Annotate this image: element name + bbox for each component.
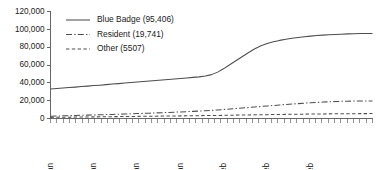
x-axis-minor-ticks xyxy=(51,119,373,123)
y-axis-group: 020,00040,00060,00080,000100,000120,000 xyxy=(15,7,51,123)
x-tick-label: 10 Feb xyxy=(262,163,271,169)
legend-label-resident: Resident (19,741) xyxy=(97,29,164,39)
x-axis-group: 06 Jan13 Jan20 Jan27 Jan03 Feb10 Feb17 F… xyxy=(46,119,373,170)
x-tick-label: 06 Jan xyxy=(46,163,55,169)
series-line-blue-badge xyxy=(51,33,373,89)
y-tick-label: 100,000 xyxy=(15,25,45,34)
y-tick-label: 60,000 xyxy=(19,60,44,69)
x-tick-label: 20 Jan xyxy=(132,163,141,169)
y-tick-label: 80,000 xyxy=(19,42,44,51)
x-axis-tick-labels: 06 Jan13 Jan20 Jan27 Jan03 Feb10 Feb17 F… xyxy=(46,163,315,169)
x-tick-label: 03 Feb xyxy=(219,163,228,169)
legend-label-other: Other (5507) xyxy=(97,43,145,53)
y-axis-ticks xyxy=(47,12,51,119)
y-axis-tick-labels: 020,00040,00060,00080,000100,000120,000 xyxy=(15,7,45,123)
x-tick-label: 13 Jan xyxy=(89,163,98,169)
y-tick-label: 40,000 xyxy=(19,78,44,87)
x-tick-label: 27 Jan xyxy=(176,163,185,169)
y-tick-label: 120,000 xyxy=(15,7,45,16)
chart-legend: Blue Badge (95,406)Resident (19,741)Othe… xyxy=(66,14,174,53)
series-line-other xyxy=(51,114,373,118)
y-tick-label: 0 xyxy=(40,114,45,123)
x-tick-label: 17 Feb xyxy=(306,163,315,169)
line-chart: 020,00040,00060,00080,000100,000120,000 … xyxy=(0,0,384,169)
legend-label-blue-badge: Blue Badge (95,406) xyxy=(97,14,174,24)
y-tick-label: 20,000 xyxy=(19,96,44,105)
chart-canvas: 020,00040,00060,00080,000100,000120,000 … xyxy=(0,0,384,169)
